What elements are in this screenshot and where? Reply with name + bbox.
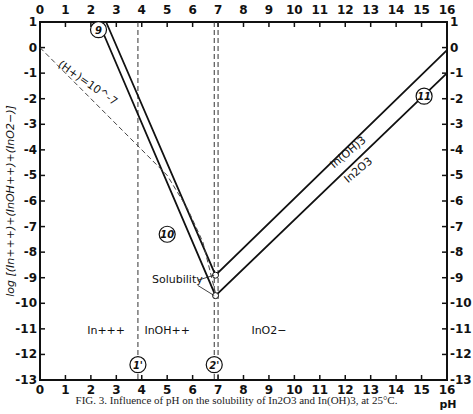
circled-label-text: 9 xyxy=(95,25,102,36)
x-tick-label-top: 3 xyxy=(112,3,120,17)
x-tick-label-top: 12 xyxy=(337,3,354,17)
x-tick-label-top: 6 xyxy=(188,3,196,17)
annotation-text: Solubility xyxy=(152,273,203,286)
x-tick-label-top: 2 xyxy=(87,3,95,17)
y-tick-label-right: -13 xyxy=(450,373,472,387)
x-tick-label-top: 5 xyxy=(163,3,171,17)
y-tick-label-left: -2 xyxy=(24,92,37,106)
x-tick-label-top: 0 xyxy=(36,3,44,17)
y-tick-label-right: -9 xyxy=(450,271,463,285)
y-tick-label-right: -2 xyxy=(450,92,463,106)
y-tick-label-left: -9 xyxy=(24,271,37,285)
x-tick-label-top: 13 xyxy=(362,3,379,17)
data-series xyxy=(40,22,447,299)
x-tick-label-top: 8 xyxy=(239,3,247,17)
solubility-chart: 0011223344556677889910101111121213131414… xyxy=(0,0,473,414)
y-tick-label-left: -5 xyxy=(24,168,37,182)
y-tick-label-left: 0 xyxy=(29,41,37,55)
y-axis-label: log [(In+++)+(InOH++)+(InO2−)] xyxy=(4,105,17,297)
y-tick-label-right: -10 xyxy=(450,296,472,310)
y-tick-label-left: -1 xyxy=(24,66,37,80)
minimum-marker xyxy=(213,293,219,299)
x-tick-label-top: 15 xyxy=(413,3,430,17)
y-tick-label-right: -3 xyxy=(450,117,463,131)
annotation-text: (H+)=10^-7 xyxy=(56,58,120,109)
circled-label-text: 2' xyxy=(209,360,219,371)
y-tick-label-right: -6 xyxy=(450,194,463,208)
y-tick-label-left: -7 xyxy=(24,220,37,234)
circled-label-text: 10 xyxy=(160,229,174,240)
y-tick-label-right: -11 xyxy=(450,322,472,336)
figure-caption: FIG. 3. Influence of pH on the solubilit… xyxy=(0,394,473,406)
x-tick-label-top: 10 xyxy=(286,3,303,17)
y-tick-label-left: -13 xyxy=(15,373,37,387)
annotations: 910111'2'(H+)=10^-7SolubilityIn(OH)3In2O… xyxy=(56,22,432,373)
y-tick-label-right: -4 xyxy=(450,143,463,157)
x-tick-label-top: 1 xyxy=(61,3,69,17)
annotation-text: InO2− xyxy=(251,324,286,337)
annotation-text: In+++ xyxy=(87,324,125,337)
annotation-text: InOH++ xyxy=(144,324,190,337)
circled-label-text: 11 xyxy=(417,91,431,102)
y-tick-label-right: -7 xyxy=(450,220,463,234)
y-tick-label-left: -12 xyxy=(15,347,37,361)
x-tick-label-top: 11 xyxy=(311,3,328,17)
y-tick-label-left: -10 xyxy=(15,296,37,310)
x-tick-label-top: 4 xyxy=(138,3,146,17)
x-tick-label-top: 9 xyxy=(265,3,273,17)
y-tick-label-left: -3 xyxy=(24,117,37,131)
x-tick-label-top: 7 xyxy=(214,3,222,17)
y-tick-label-left: -6 xyxy=(24,194,37,208)
y-tick-label-right: -8 xyxy=(450,245,463,259)
y-tick-label-left: 1 xyxy=(29,15,37,29)
y-tick-label-right: -12 xyxy=(450,347,472,361)
circled-label-text: 1' xyxy=(133,360,143,371)
axis-ticks: 0011223344556677889910101111121213131414… xyxy=(4,3,472,411)
y-tick-label-left: -8 xyxy=(24,245,37,259)
x-tick-label-top: 14 xyxy=(388,3,405,17)
y-tick-label-right: -5 xyxy=(450,168,463,182)
y-tick-label-right: -1 xyxy=(450,66,463,80)
y-tick-label-left: -11 xyxy=(15,322,37,336)
y-tick-label-right: 0 xyxy=(450,41,458,55)
y-tick-label-left: -4 xyxy=(24,143,37,157)
series-line xyxy=(40,48,216,294)
y-tick-label-right: 1 xyxy=(450,15,458,29)
